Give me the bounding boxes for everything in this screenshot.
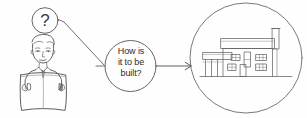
person-reading-document: [20, 34, 66, 110]
arrow-to-answer: [156, 62, 191, 69]
question-mark-bubble-outline: [32, 8, 58, 34]
house-illustration: [200, 29, 292, 77]
question-bubble-outline: [105, 41, 156, 92]
house-illustration-circle-outline: [190, 3, 302, 113]
thought-connector-line: [59, 20, 105, 66]
diagram-canvas: ? How is it to be built?: [0, 0, 307, 118]
diagram-artwork: [0, 0, 307, 118]
